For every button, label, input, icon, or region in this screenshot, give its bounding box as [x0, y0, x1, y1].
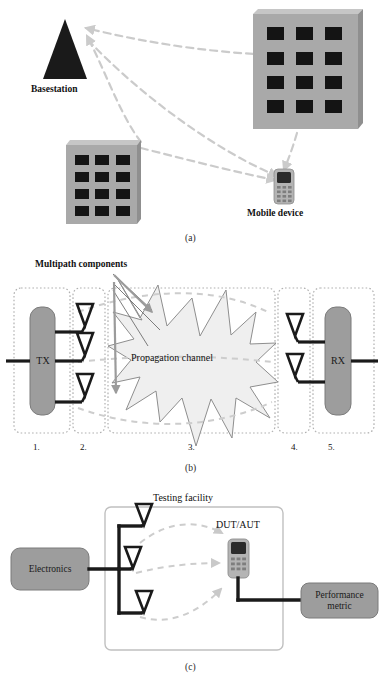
tx-antenna-group	[55, 304, 93, 402]
tx-antenna-1	[55, 304, 93, 332]
multipath-arrow-lower	[114, 282, 116, 393]
rx-antenna-2	[287, 354, 325, 382]
probe-antenna-3	[136, 591, 152, 613]
panel-a-caption: (a)	[185, 233, 196, 243]
mobile-device-label: Mobile device	[247, 209, 303, 219]
panel-a-graphics	[0, 0, 388, 250]
testing-facility-label: Testing facility	[153, 493, 213, 503]
stage-box-4	[278, 288, 310, 433]
panel-b-mimo-channel: Multipath components TX RX Propagation c…	[0, 250, 388, 485]
rx-antenna-1	[287, 314, 325, 342]
ota-path-top	[140, 524, 222, 543]
mobile-phone-icon	[274, 169, 294, 204]
tx-antenna-2	[55, 333, 93, 361]
path-building-right-to-mobile	[284, 133, 297, 170]
stage-number-2: 2.	[80, 443, 87, 452]
building-left-icon	[66, 140, 141, 224]
tx-block	[30, 307, 55, 415]
building-right-icon	[253, 9, 363, 129]
path-building-left-to-mobile	[141, 148, 275, 180]
panel-c-caption: (c)	[185, 662, 196, 672]
dut-mobile-phone-icon	[228, 539, 249, 578]
stage-number-3: 3.	[188, 443, 195, 452]
ota-path-group	[136, 524, 222, 620]
panel-c-graphics	[0, 485, 388, 685]
performance-metric-block	[301, 583, 378, 618]
multipath-components-label: Multipath components	[35, 260, 127, 270]
basestation-triangle-icon	[43, 19, 87, 79]
panel-c-testing-setup: Testing facility Electronics DUT/AUT Per…	[0, 485, 388, 685]
ota-path-middle	[136, 563, 219, 573]
electronics-block	[11, 548, 89, 590]
figure-container: Basestation Mobile device (a)	[0, 0, 388, 685]
probe-antenna-2	[125, 547, 141, 569]
dut-output-wire	[238, 578, 302, 600]
basestation-label: Basestation	[31, 85, 77, 95]
stage-number-5: 5.	[328, 443, 335, 452]
stage-number-1: 1.	[33, 443, 40, 452]
stage-number-4: 4.	[291, 443, 298, 452]
rx-antenna-group	[287, 314, 325, 382]
tx-antenna-3	[55, 374, 93, 402]
panel-a-propagation-scenario: Basestation Mobile device (a)	[0, 0, 388, 250]
propagation-channel-label: Propagation channel	[131, 353, 213, 363]
panel-b-caption: (b)	[185, 463, 196, 473]
rx-block	[325, 307, 351, 415]
dut-aut-label: DUT/AUT	[216, 520, 260, 530]
probe-antenna-group	[125, 504, 152, 613]
path-building-left-to-basestation	[87, 36, 141, 142]
